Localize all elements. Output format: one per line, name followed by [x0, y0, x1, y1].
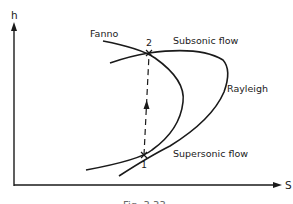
point-1-label: 1	[141, 159, 147, 170]
x-axis-arrow-icon	[273, 182, 282, 188]
supersonic-flow-label: Supersonic flow	[173, 148, 248, 159]
fanno-rayleigh-diagram: h S 2 1 Fanno Subsonic flow Rayleigh Sup…	[0, 0, 293, 204]
figure-caption: Fig. 3.33	[123, 200, 166, 204]
subsonic-flow-label: Subsonic flow	[173, 35, 239, 46]
y-axis-label: h	[11, 9, 18, 21]
x-axis-label: S	[285, 179, 292, 191]
rayleigh-label: Rayleigh	[227, 83, 268, 94]
fanno-curve	[86, 41, 183, 170]
fanno-label: Fanno	[90, 28, 118, 39]
process-arrow-icon	[144, 100, 150, 109]
y-axis-arrow-icon	[11, 22, 17, 31]
point-2-label: 2	[146, 37, 152, 48]
